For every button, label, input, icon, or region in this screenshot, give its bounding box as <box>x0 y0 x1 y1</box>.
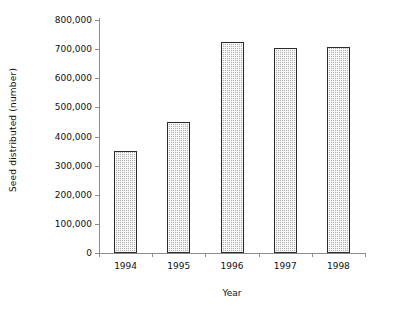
y-tick-label: 0 <box>28 249 92 258</box>
x-tick-mark-origin <box>99 253 100 257</box>
y-tick-mark <box>95 137 99 138</box>
y-axis-line <box>99 18 100 254</box>
y-tick-label: 200,000 <box>28 191 92 200</box>
y-tick-label: 300,000 <box>28 162 92 171</box>
x-tick-mark <box>259 253 260 257</box>
x-tick-label: 1995 <box>152 262 205 271</box>
y-tick-label: 700,000 <box>28 45 92 54</box>
x-axis-line <box>95 253 365 254</box>
y-tick-mark <box>95 166 99 167</box>
bar-1998 <box>327 47 350 253</box>
y-tick-label: 500,000 <box>28 103 92 112</box>
y-tick-label: 400,000 <box>28 133 92 142</box>
x-tick-mark <box>365 253 366 257</box>
bar-1997 <box>274 48 297 253</box>
x-tick-label: 1994 <box>99 262 152 271</box>
x-tick-label: 1998 <box>312 262 365 271</box>
bar-chart: Seed distributed (number) 0100,000200,00… <box>0 0 402 309</box>
y-tick-mark <box>95 49 99 50</box>
y-tick-label: 800,000 <box>28 16 92 25</box>
x-tick-label: 1996 <box>205 262 258 271</box>
y-axis-tick-labels: 0100,000200,000300,000400,000500,000600,… <box>28 0 92 309</box>
bar-1996 <box>221 42 244 253</box>
y-tick-label: 100,000 <box>28 220 92 229</box>
y-axis-title-text: Seed distributed (number) <box>8 68 18 192</box>
bar-1995 <box>167 122 190 253</box>
bar-1994 <box>114 151 137 253</box>
y-tick-mark <box>95 78 99 79</box>
x-tick-mark <box>205 253 206 257</box>
y-tick-mark <box>95 20 99 21</box>
y-tick-mark <box>95 195 99 196</box>
y-axis-title: Seed distributed (number) <box>0 0 26 260</box>
plot-area <box>99 20 365 253</box>
y-tick-label: 600,000 <box>28 74 92 83</box>
y-tick-mark <box>95 224 99 225</box>
x-tick-label: 1997 <box>259 262 312 271</box>
x-axis-title: Year <box>99 288 365 298</box>
y-tick-mark <box>95 107 99 108</box>
x-tick-mark <box>152 253 153 257</box>
x-tick-mark <box>312 253 313 257</box>
